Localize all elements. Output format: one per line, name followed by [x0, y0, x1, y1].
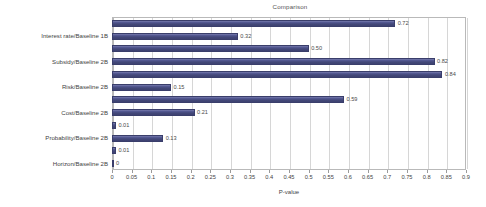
- bar-value-label: 0.82: [437, 57, 448, 65]
- x-tick-label: 0.2: [187, 174, 195, 180]
- x-tick-mark: [112, 170, 113, 173]
- x-tick-label: 0.7: [383, 174, 391, 180]
- x-tick-label: 0.8: [423, 174, 431, 180]
- bar-row[interactable]: 0.13: [112, 135, 466, 142]
- x-tick-mark: [210, 170, 211, 173]
- bar-value-label: 0.50: [311, 44, 322, 52]
- x-tick-label: 0.1: [147, 174, 155, 180]
- chart-title: Comparison: [47, 3, 486, 10]
- x-tick-label: 0.05: [126, 174, 137, 180]
- x-tick-label: 0.5: [305, 174, 313, 180]
- x-tick-mark: [446, 170, 447, 173]
- x-tick-mark: [250, 170, 251, 173]
- category-label: Cost/Baseline 2B: [0, 109, 108, 117]
- x-tick-label: 0.45: [283, 174, 294, 180]
- bar[interactable]: [112, 96, 344, 103]
- bar[interactable]: [112, 109, 195, 116]
- x-tick-label: 0.6: [344, 174, 352, 180]
- bar-value-label: 0.01: [118, 146, 129, 154]
- x-tick-mark: [289, 170, 290, 173]
- x-tick-mark: [328, 170, 329, 173]
- x-tick-mark: [407, 170, 408, 173]
- x-tick-label: 0: [110, 174, 113, 180]
- bar[interactable]: [112, 20, 395, 27]
- x-tick-label: 0.9: [462, 174, 470, 180]
- bar[interactable]: [112, 58, 435, 65]
- x-tick-label: 0.75: [401, 174, 412, 180]
- bar-row[interactable]: 0.82: [112, 58, 466, 65]
- x-tick-mark: [171, 170, 172, 173]
- bars-layer: 0.720.320.500.820.840.150.590.210.010.13…: [112, 17, 466, 170]
- x-tick-label: 0.25: [205, 174, 216, 180]
- bar-value-label: 0.01: [118, 121, 129, 129]
- bar-value-label: 0.59: [347, 95, 358, 103]
- x-axis-ticks: 00.050.10.150.20.250.30.350.40.450.50.55…: [112, 170, 466, 184]
- x-axis-title: P-value: [112, 189, 466, 195]
- x-tick-mark: [230, 170, 231, 173]
- x-tick-label: 0.4: [265, 174, 273, 180]
- x-tick-mark: [348, 170, 349, 173]
- bar-row[interactable]: 0.84: [112, 71, 466, 78]
- bar[interactable]: [112, 84, 171, 91]
- bar-row[interactable]: 0.50: [112, 45, 466, 52]
- bar[interactable]: [112, 122, 116, 129]
- x-tick-mark: [368, 170, 369, 173]
- x-tick-label: 0.65: [362, 174, 373, 180]
- x-tick-mark: [151, 170, 152, 173]
- category-label: Horizon/Baseline 2B: [0, 160, 108, 168]
- bar[interactable]: [112, 33, 238, 40]
- bar-value-label: 0.13: [166, 134, 177, 142]
- bar-value-label: 0: [116, 159, 119, 167]
- bar-row[interactable]: 0.15: [112, 84, 466, 91]
- x-tick-mark: [191, 170, 192, 173]
- category-label: Interest rate/Baseline 1B: [0, 32, 108, 40]
- bar[interactable]: [112, 71, 442, 78]
- bar[interactable]: [112, 147, 116, 154]
- bar-value-label: 0.15: [174, 83, 185, 91]
- x-tick-label: 0.55: [323, 174, 334, 180]
- bar-row[interactable]: 0.01: [112, 122, 466, 129]
- bar-row[interactable]: 0.72: [112, 20, 466, 27]
- x-tick-label: 0.85: [441, 174, 452, 180]
- bar-row[interactable]: 0.01: [112, 147, 466, 154]
- x-tick-mark: [387, 170, 388, 173]
- bar-row[interactable]: 0: [112, 160, 466, 167]
- bar[interactable]: [112, 135, 163, 142]
- bar-row[interactable]: 0.32: [112, 33, 466, 40]
- bar-value-label: 0.21: [197, 108, 208, 116]
- x-tick-mark: [309, 170, 310, 173]
- x-tick-mark: [132, 170, 133, 173]
- bar-row[interactable]: 0.59: [112, 96, 466, 103]
- x-tick-mark: [466, 170, 467, 173]
- x-tick-label: 0.3: [226, 174, 234, 180]
- bar-row[interactable]: 0.21: [112, 109, 466, 116]
- category-label: Risk/Baseline 2B: [0, 83, 108, 91]
- bar[interactable]: [112, 45, 309, 52]
- bar-value-label: 0.84: [445, 70, 456, 78]
- gridline: [467, 18, 468, 169]
- category-label: Probability/Baseline 2B: [0, 134, 108, 142]
- x-tick-label: 0.15: [165, 174, 176, 180]
- x-tick-label: 0.35: [244, 174, 255, 180]
- comparison-bar-chart: Comparison 0.720.320.500.820.840.150.590…: [0, 0, 486, 207]
- category-axis-labels: Interest rate/Baseline 1BSubsidy/Baselin…: [0, 17, 108, 170]
- category-label: Subsidy/Baseline 2B: [0, 58, 108, 66]
- bar-value-label: 0.32: [240, 32, 251, 40]
- bar[interactable]: [112, 160, 114, 167]
- x-tick-mark: [269, 170, 270, 173]
- x-tick-mark: [427, 170, 428, 173]
- bar-value-label: 0.72: [398, 19, 409, 27]
